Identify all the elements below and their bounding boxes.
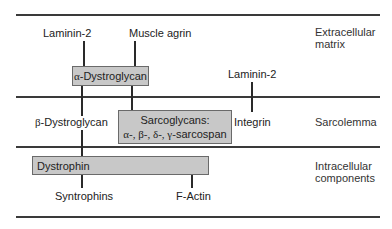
f-actin-label: F-Actin: [176, 190, 211, 202]
sarcoglycans-title: Sarcoglycans:: [119, 114, 231, 126]
laminin-2-left-label: Laminin-2: [43, 27, 91, 39]
sarcospan-label: sarcospan: [176, 128, 227, 140]
region-sarcolemma: Sarcolemma: [315, 116, 377, 128]
region-label-line2: components: [315, 172, 375, 184]
connector-dystrophin-f-actin: [191, 175, 193, 188]
sarcoglycans-box: Sarcoglycans: α-, β-, δ-, γ-sarcospan: [118, 110, 232, 144]
syntrophins-label: Syntrophins: [55, 190, 113, 202]
top-boundary-line: [16, 14, 380, 16]
region-label-line2: matrix: [315, 38, 376, 50]
connector-laminin-integrin: [251, 82, 253, 112]
laminin-2-right-label: Laminin-2: [228, 68, 276, 80]
integrin-label: Integrin: [234, 116, 271, 128]
dystrophin-label: Dystrophin: [37, 160, 90, 172]
muscle-agrin-label: Muscle agrin: [129, 27, 191, 39]
alpha-dystroglycan-label: -Dystroglycan: [80, 70, 147, 82]
region-label-line1: Extracellular: [315, 26, 376, 38]
connector-agrin-alpha-dg: [134, 41, 136, 67]
connector-dystrophin-syntrophins: [81, 175, 83, 188]
sarcoglycans-members: α-, β-, δ-, γ-sarcospan: [119, 128, 231, 140]
region-label-line1: Intracellular: [315, 160, 375, 172]
sarcoglycans-greek: α-, β-, δ-, γ-: [123, 128, 176, 140]
connector-laminin-alpha-dg: [83, 41, 85, 67]
alpha-dystroglycan-box: α-Dystroglycan: [72, 66, 149, 86]
region-intracellular-components: Intracellular components: [315, 160, 375, 184]
beta-dystroglycan-label: β-Dystroglycan: [35, 116, 108, 128]
connector-alpha-beta-dg: [81, 86, 83, 116]
region-extracellular-matrix: Extracellular matrix: [315, 26, 376, 50]
connector-beta-dg-dystrophin: [81, 130, 83, 157]
region-label-line1: Sarcolemma: [315, 116, 377, 128]
extracellular-sarcolemma-boundary: [16, 96, 380, 98]
bottom-boundary-line: [16, 216, 380, 218]
dystrophin-box: Dystrophin: [32, 156, 209, 175]
connector-alpha-dg-sarcoglycans: [131, 86, 133, 110]
beta-dystroglycan-text: -Dystroglycan: [41, 116, 108, 128]
sarcolemma-intracellular-boundary: [16, 146, 380, 148]
